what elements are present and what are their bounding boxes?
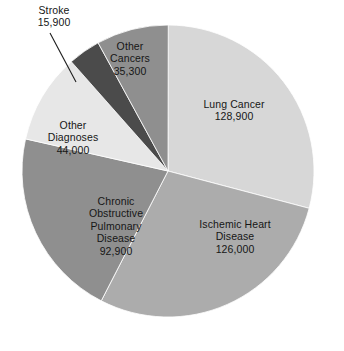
pie-slice-group <box>22 25 314 317</box>
pie-chart-canvas <box>0 0 344 351</box>
pie-chart: Lung Cancer 128,900 Ischemic Heart Disea… <box>0 0 344 351</box>
